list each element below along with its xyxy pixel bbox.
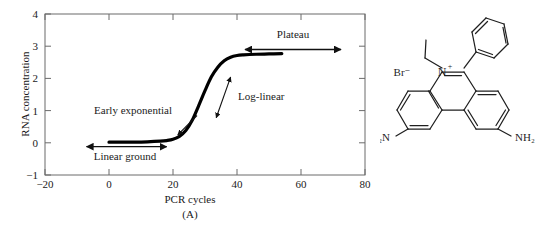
bond-left-6-double <box>429 91 439 108</box>
figure-root: −20 0 20 40 60 80 −1 0 1 2 3 4 <box>0 0 539 233</box>
structure-bonds <box>396 18 511 136</box>
structure-atom-labels: Br⁻ N + H₂N NH₂ <box>380 62 535 143</box>
annotation-linear-ground: Linear ground <box>87 147 167 162</box>
bond-c10a-c4a <box>430 91 442 110</box>
bond-c6-c6a <box>464 72 476 91</box>
amine-left-label: H₂N <box>380 131 390 143</box>
panel-a-caption: (A) <box>0 208 380 220</box>
panel-b-structure: Br⁻ N + H₂N NH₂ (B) <box>380 0 539 233</box>
amine-right-label: NH₂ <box>515 131 535 143</box>
x-tick-label-1: 0 <box>106 178 112 190</box>
bond-ch2-ch3 <box>425 40 426 58</box>
bond-right-2 <box>498 91 509 110</box>
plateau-label: Plateau <box>277 28 310 40</box>
nitrogen-charge-label: + <box>448 62 453 71</box>
panel-a-chart: −20 0 20 40 60 80 −1 0 1 2 3 4 <box>0 0 380 233</box>
x-tick-label-3: 40 <box>232 178 244 190</box>
y-tick-label-3: 2 <box>33 72 39 84</box>
x-tick-label-0: −20 <box>36 178 54 190</box>
log-linear-label: Log-linear <box>238 90 285 102</box>
y-axis-title: RNA concentration <box>19 14 31 174</box>
bond-c6a-c10b <box>464 91 476 110</box>
early-exponential-arrow <box>178 116 197 135</box>
y-tick-label-2: 1 <box>33 105 39 117</box>
log-linear-double-arrow <box>216 77 230 118</box>
x-tick-labels: −20 0 20 40 60 80 <box>36 178 371 190</box>
y-tick-label-4: 3 <box>33 40 39 52</box>
annotation-early-exponential: Early exponential <box>94 104 197 135</box>
bond-ph-5 <box>494 44 508 58</box>
annotation-log-linear: Log-linear <box>216 77 285 118</box>
y-tick-label-5: 4 <box>33 8 39 20</box>
bond-ph-6 <box>476 52 494 58</box>
bond-left-to-nh2 <box>396 129 408 136</box>
bond-ph-3 <box>486 18 504 24</box>
annotation-plateau: Plateau <box>245 28 341 50</box>
x-tick-label-2: 20 <box>168 178 180 190</box>
bromide-label: Br⁻ <box>394 66 411 78</box>
nitrogen-label: N <box>438 65 447 79</box>
bond-c6-phenyl <box>464 52 476 68</box>
bond-left-5 <box>430 110 442 129</box>
ethidium-bromide-structure: Br⁻ N + H₂N NH₂ <box>380 0 539 200</box>
pcr-amplification-chart: −20 0 20 40 60 80 −1 0 1 2 3 4 <box>0 0 380 195</box>
early-exponential-label: Early exponential <box>94 104 172 116</box>
bond-ph-1 <box>472 32 476 52</box>
x-axis-title: PCR cycles <box>0 193 380 205</box>
linear-ground-label: Linear ground <box>94 150 157 162</box>
bond-right-to-nh2 <box>498 129 511 136</box>
bond-left-3 <box>397 110 408 129</box>
x-tick-label-5: 80 <box>360 178 372 190</box>
y-tick-label-1: 0 <box>33 137 39 149</box>
x-tick-label-4: 60 <box>296 178 308 190</box>
